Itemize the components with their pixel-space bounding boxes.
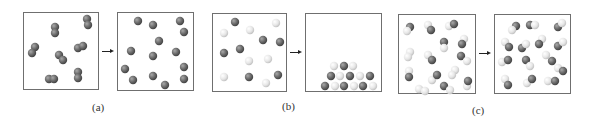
dark-atom-icon [149,52,157,60]
atoms-a-before [28,15,92,83]
dark-atom-icon [327,72,335,80]
light-atom-icon [262,79,270,87]
dark-atom-icon [346,72,354,80]
dark-atom-icon [559,67,567,75]
dark-atom-icon [535,40,543,48]
dark-atom-icon [129,76,137,84]
dark-atom-icon [51,29,59,37]
dark-atom-icon [28,49,36,57]
dark-atom-icon [551,77,559,85]
dark-atom-icon [180,63,188,71]
dark-atom-icon [505,43,513,51]
light-atom-icon [522,40,530,48]
dark-atom-icon [74,74,82,82]
dark-atom-icon [161,81,169,89]
dark-atom-icon [149,21,157,29]
light-atom-icon [330,62,338,70]
light-atom-icon [404,53,412,61]
light-atom-icon [558,19,566,27]
dark-atom-icon [245,73,253,81]
dark-atom-icon [548,57,556,65]
dark-atom-icon [84,21,92,29]
atoms-a-after [121,17,188,89]
light-atom-icon [336,72,344,80]
light-atom-icon [448,71,456,79]
dark-atom-icon [172,48,180,56]
dark-atom-icon [359,82,367,90]
atoms-b-before [220,18,284,87]
dark-atom-icon [176,17,184,25]
light-atom-icon [369,82,377,90]
dark-atom-icon [464,77,472,85]
light-atom-icon [356,72,364,80]
dark-atom-icon [433,71,441,79]
particles-layer [0,0,594,126]
light-atom-icon [272,19,280,27]
dark-atom-icon [180,28,188,36]
dark-atom-icon [276,38,284,46]
light-atom-icon [245,57,253,65]
light-atom-icon [526,62,534,70]
dark-atom-icon [149,72,157,80]
dark-atom-icon [450,20,458,28]
dark-atom-icon [236,45,244,53]
light-atom-icon [531,21,539,29]
dark-atom-icon [340,82,348,90]
light-atom-icon [421,87,429,95]
light-atom-icon [264,55,272,63]
dark-atom-icon [504,56,512,64]
dark-atom-icon [50,75,58,83]
light-atom-icon [463,57,471,65]
light-atom-icon [403,27,411,35]
dark-atom-icon [180,75,188,83]
light-atom-icon [350,82,358,90]
light-atom-icon [220,29,228,37]
dark-atom-icon [504,81,512,89]
dark-atom-icon [259,36,267,44]
light-atom-icon [440,44,448,52]
dark-atom-icon [340,62,348,70]
dark-atom-icon [427,26,435,34]
dark-atom-icon [220,49,228,57]
light-atom-icon [220,73,228,81]
light-atom-icon [542,51,550,59]
dark-atom-icon [134,17,142,25]
dark-atom-icon [321,82,329,90]
dark-atom-icon [127,47,135,55]
light-atom-icon [349,62,357,70]
dark-atom-icon [428,56,436,64]
light-atom-icon [246,26,254,34]
light-atom-icon [559,38,567,46]
dark-atom-icon [155,37,163,45]
dark-atom-icon [274,71,282,79]
dark-atom-icon [231,18,239,26]
dark-atom-icon [405,73,413,81]
dark-atom-icon [59,56,67,64]
atoms-c-before [403,20,472,95]
dark-atom-icon [528,75,536,83]
atoms-c-after [498,19,567,89]
dark-atom-icon [79,42,87,50]
atoms-b-after [321,62,377,90]
dark-atom-icon [366,72,374,80]
dark-atom-icon [121,65,129,73]
light-atom-icon [508,26,516,34]
light-atom-icon [331,82,339,90]
dark-atom-icon [458,40,466,48]
light-atom-icon [446,86,454,94]
